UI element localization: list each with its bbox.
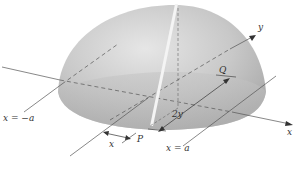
x-axis-arrowhead — [285, 121, 293, 126]
y-axis-label: y — [257, 22, 264, 32]
x-axis-label: x — [287, 127, 292, 137]
point-q-label: Q — [219, 65, 227, 75]
left-bound-label: x = −a — [3, 113, 34, 123]
distance-x-label: x — [109, 139, 114, 149]
left-bound-line — [24, 84, 62, 112]
distance-x-arrowhead-left — [103, 131, 109, 136]
width-2y-label: 2y — [171, 109, 184, 119]
x-axis-line-left — [2, 67, 60, 80]
x-tick-right — [122, 133, 136, 143]
point-p-label: P — [136, 134, 144, 144]
hemisphere-diagram: y x Q P 2y x x = −a x = a — [0, 0, 303, 170]
right-bound-label: x = a — [166, 143, 190, 153]
